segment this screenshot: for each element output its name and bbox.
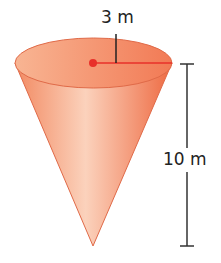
cone-body: [15, 63, 172, 246]
height-label: 10 m: [163, 149, 207, 169]
radius-label: 3 m: [101, 7, 134, 27]
cone-diagram: [0, 0, 221, 263]
center-dot: [89, 59, 97, 67]
